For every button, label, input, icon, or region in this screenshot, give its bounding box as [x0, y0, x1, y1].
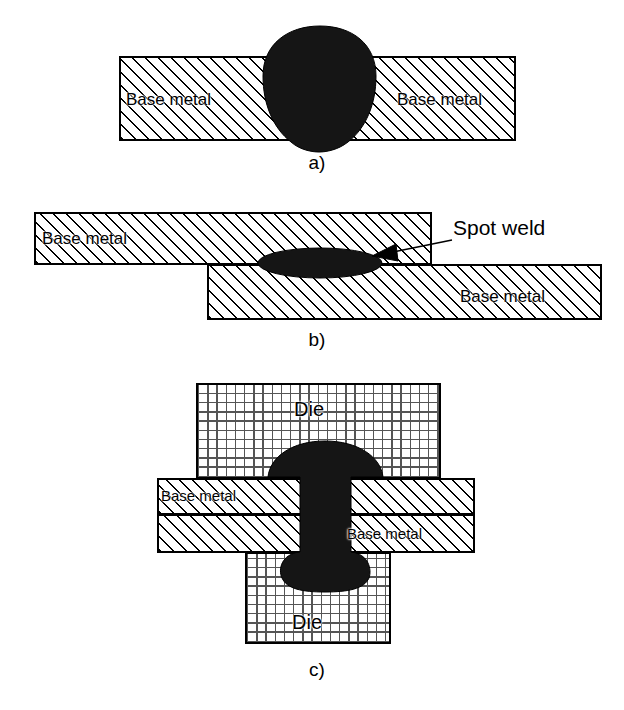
panel-a-caption: a): [295, 153, 339, 172]
panel-b-caption: b): [295, 330, 339, 349]
panel-a-base-metal-left-label: Base metal: [126, 91, 211, 108]
panel-a-base-metal-right-label: Base metal: [397, 91, 482, 108]
panel-b-upper-base-metal-label: Base metal: [42, 230, 127, 247]
panel-b-spot-weld-callout-label: Spot weld: [453, 217, 545, 238]
panel-c-lower-base-metal-label: Base metal: [347, 526, 422, 541]
panel-c-upper-die-label: Die: [294, 399, 324, 419]
panel-c-caption: c): [295, 660, 339, 679]
welding-joint-figure: Base metal Base metal a) Base metal Base…: [0, 0, 624, 710]
panel-c-lower-die-label: Die: [292, 612, 322, 632]
panel-b-lower-base-metal-label: Base metal: [460, 288, 545, 305]
panel-c-upper-base-metal-label: Base metal: [161, 488, 236, 503]
panel-c-lower-base-metal-plate: [157, 514, 475, 553]
